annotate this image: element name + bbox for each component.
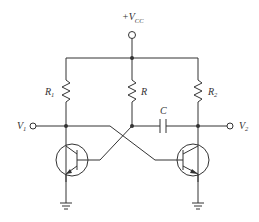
v1-terminal (30, 123, 36, 129)
v1-label: V1 (17, 120, 26, 132)
vcc-label: +VCC (122, 11, 144, 24)
resistor-r2 (194, 58, 202, 182)
v2-terminal (227, 123, 233, 129)
v2-label: V2 (239, 120, 249, 132)
resistor-r1 (62, 58, 70, 182)
ground-left-icon (60, 203, 72, 209)
circuit-diagram: +VCC R1 R R2 V1 C V2 (0, 0, 259, 222)
r2-label: R2 (207, 86, 218, 98)
resistor-r (128, 58, 136, 126)
cross-wire-to-right-base (110, 126, 172, 160)
cross-wire-to-left-base (83, 126, 132, 160)
capacitor-c (160, 119, 166, 133)
vcc-terminal (129, 32, 136, 39)
r-label: R (140, 86, 147, 97)
transistor-right-npn (172, 144, 209, 176)
ground-right-icon (192, 203, 204, 209)
r1-label: R1 (44, 86, 54, 98)
c-label: C (160, 105, 167, 116)
